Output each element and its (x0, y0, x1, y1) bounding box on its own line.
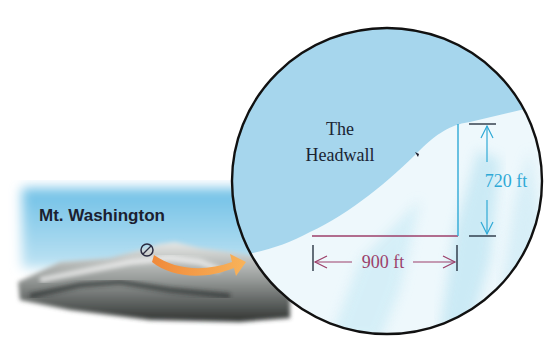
vertical-dimension-label: 720 ft (485, 171, 528, 191)
horizontal-dimension-label: 900 ft (362, 252, 405, 272)
headwall-diagram: Mt. Washington The Headwall 720 ft (0, 0, 557, 346)
inset-title-line2: Headwall (306, 145, 375, 165)
inset-title-line1: The (326, 119, 354, 139)
mountain-label: Mt. Washington (39, 206, 165, 225)
